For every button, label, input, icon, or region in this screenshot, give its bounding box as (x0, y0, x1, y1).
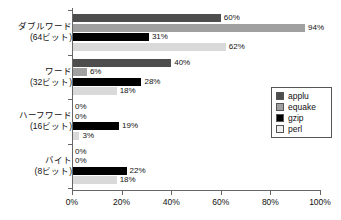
legend-swatch-icon (276, 114, 284, 122)
legend-label: perl (288, 125, 302, 134)
y-axis-tick (68, 144, 72, 145)
category-label-byte: バイト (8ビット) (0, 155, 72, 177)
bar-chart: ダブルワード (64ビット) ワード (32ビット) ハーフワード (16ビット… (0, 0, 341, 220)
y-axis-tick (68, 55, 72, 56)
category-label-line2: (16ビット) (0, 121, 72, 132)
bar-value-label: 18% (117, 87, 136, 95)
x-axis-tick-label: 80% (262, 197, 279, 207)
bar-value-label: 0% (72, 103, 87, 111)
category-label-word: ワード (32ビット) (0, 66, 72, 88)
bar-value-label: 60% (221, 14, 240, 22)
category-label-line2: (32ビット) (0, 77, 72, 88)
x-axis-tick (221, 191, 222, 195)
x-axis-line (72, 190, 321, 191)
bar-value-label: 0% (72, 148, 87, 156)
x-axis-tick (171, 191, 172, 195)
legend-label: equake (288, 103, 316, 112)
category-label-line2: (8ビット) (0, 166, 72, 177)
legend-label: applu (288, 92, 309, 101)
legend-label: gzip (288, 114, 304, 123)
bar-value-label: 0% (72, 157, 87, 165)
bar-row: 94% (72, 24, 320, 32)
category-label-line2: (64ビット) (0, 32, 72, 43)
bar-row: 28% (72, 78, 320, 86)
bar-gzip[interactable] (72, 167, 127, 175)
bar-row: 18% (72, 176, 320, 184)
bar-perl[interactable] (72, 43, 226, 51)
bar-row: 60% (72, 14, 320, 22)
legend-swatch-icon (276, 92, 284, 100)
bar-perl[interactable] (72, 132, 79, 140)
bar-value-label: 19% (119, 122, 138, 130)
legend-item-applu[interactable]: applu (276, 91, 327, 101)
bar-value-label: 22% (127, 167, 146, 175)
bar-row: 62% (72, 43, 320, 51)
bar-value-label: 31% (149, 33, 168, 41)
x-axis-tick-label: 60% (212, 197, 229, 207)
bar-group: 0%0%22%18% (72, 148, 320, 185)
x-axis-tick-label: 20% (113, 197, 130, 207)
x-axis-tick (122, 191, 123, 195)
bar-value-label: 3% (79, 132, 94, 140)
bar-gzip[interactable] (72, 78, 141, 86)
bar-perl[interactable] (72, 176, 117, 184)
y-axis-line (72, 8, 73, 190)
y-axis-tick (68, 99, 72, 100)
bar-value-label: 40% (171, 59, 190, 67)
x-axis-tick (72, 191, 73, 195)
bar-perl[interactable] (72, 87, 117, 95)
bar-value-label: 0% (72, 113, 87, 121)
category-label-line1: ハーフワード (0, 110, 72, 121)
x-axis-tick-label: 40% (163, 197, 180, 207)
bar-value-label: 6% (87, 68, 102, 76)
bar-equake[interactable] (72, 24, 305, 32)
category-label-line1: ダブルワード (0, 21, 72, 32)
y-axis-tick (68, 188, 72, 189)
legend-swatch-icon (276, 103, 284, 111)
bar-applu[interactable] (72, 14, 221, 22)
x-axis-tick-label: 0% (66, 197, 78, 207)
category-label-half-word: ハーフワード (16ビット) (0, 110, 72, 132)
legend: applu equake gzip perl (271, 87, 332, 138)
bar-value-label: 94% (305, 24, 324, 32)
x-axis-tick (320, 191, 321, 195)
y-axis-tick (68, 10, 72, 11)
bar-row: 31% (72, 33, 320, 41)
bar-row: 0% (72, 148, 320, 156)
category-label-line1: ワード (0, 66, 72, 77)
bar-group: 60%94%31%62% (72, 14, 320, 51)
bar-row: 6% (72, 68, 320, 76)
bar-equake[interactable] (72, 68, 87, 76)
bar-gzip[interactable] (72, 122, 119, 130)
legend-item-gzip[interactable]: gzip (276, 113, 327, 123)
legend-item-perl[interactable]: perl (276, 124, 327, 134)
bar-row: 0% (72, 157, 320, 165)
x-axis-tick (270, 191, 271, 195)
bar-gzip[interactable] (72, 33, 149, 41)
bar-value-label: 18% (117, 176, 136, 184)
category-label-double-word: ダブルワード (64ビット) (0, 21, 72, 43)
bar-applu[interactable] (72, 59, 171, 67)
legend-item-equake[interactable]: equake (276, 102, 327, 112)
category-label-line1: バイト (0, 155, 72, 166)
bar-value-label: 28% (141, 78, 160, 86)
bar-row: 40% (72, 59, 320, 67)
bar-row: 22% (72, 167, 320, 175)
legend-swatch-icon (276, 125, 284, 133)
bar-value-label: 62% (226, 43, 245, 51)
x-axis-tick-label: 100% (309, 197, 331, 207)
